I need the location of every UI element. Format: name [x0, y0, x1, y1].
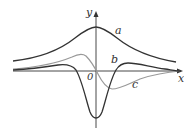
curve-a-label: a — [115, 24, 122, 37]
curve-b-label: b — [111, 53, 118, 66]
chart-canvas: y x 0 a b c — [0, 0, 184, 136]
curve-c-label: c — [132, 78, 138, 91]
y-axis-arrow-icon — [94, 11, 99, 17]
y-axis-label: y — [85, 6, 93, 19]
origin-label: 0 — [87, 71, 94, 82]
x-axis-label: x — [178, 72, 184, 85]
curve-a — [13, 27, 176, 62]
curve-c — [13, 54, 180, 89]
